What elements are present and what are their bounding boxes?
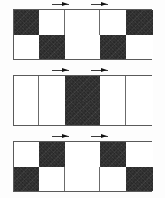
grid-cell-light <box>65 35 100 60</box>
panel-c <box>13 141 152 192</box>
grid-cell-light <box>39 167 65 192</box>
panel-b <box>13 75 152 126</box>
grid-cell-light <box>14 76 39 101</box>
grid-cell-light <box>100 10 126 35</box>
grid-cell-dark <box>126 167 153 192</box>
marker-row-c <box>0 132 165 141</box>
grid-cell-light <box>100 167 126 192</box>
panel-group-a <box>0 0 165 60</box>
grid-cell-dark <box>65 76 100 101</box>
grid-cell-light <box>39 76 65 101</box>
panel-row <box>14 101 151 126</box>
arrow-head <box>101 2 107 6</box>
grid-cell-dark <box>14 10 39 35</box>
arrow-right-icon <box>91 68 108 73</box>
grid-cell-dark <box>14 167 39 192</box>
arrow-head <box>62 134 68 138</box>
panel-row <box>14 10 151 35</box>
grid-cell-light <box>126 35 153 60</box>
panel-row <box>14 167 151 192</box>
grid-cell-light <box>126 142 153 167</box>
panel-row <box>14 142 151 167</box>
grid-cell-dark <box>126 10 153 35</box>
arrow-right-icon <box>52 134 69 139</box>
panel-row <box>14 76 151 101</box>
grid-cell-light <box>100 101 126 126</box>
grid-cell-light <box>65 167 100 192</box>
arrow-head <box>101 68 107 72</box>
grid-cell-dark <box>100 35 126 60</box>
grid-cell-dark <box>100 142 126 167</box>
arrow-head <box>101 134 107 138</box>
arrow-right-icon <box>52 68 69 73</box>
marker-row-b <box>0 66 165 75</box>
grid-cell-light <box>65 142 100 167</box>
grid-cell-light <box>39 10 65 35</box>
arrow-head <box>62 68 68 72</box>
grid-cell-dark <box>39 35 65 60</box>
panel-group-b <box>0 66 165 126</box>
marker-row-a <box>0 0 165 9</box>
grid-cell-light <box>14 101 39 126</box>
arrow-right-icon <box>52 2 69 7</box>
arrow-right-icon <box>91 2 108 7</box>
grid-cell-light <box>126 101 153 126</box>
grid-cell-light <box>100 76 126 101</box>
arrow-right-icon <box>91 134 108 139</box>
arrow-head <box>62 2 68 6</box>
figure-canvas <box>0 0 165 198</box>
panel-group-c <box>0 132 165 192</box>
grid-cell-light <box>126 76 153 101</box>
grid-cell-light <box>14 142 39 167</box>
panel-a <box>13 9 152 60</box>
grid-cell-light <box>14 35 39 60</box>
grid-cell-dark <box>65 101 100 126</box>
panel-row <box>14 35 151 60</box>
grid-cell-light <box>65 10 100 35</box>
grid-cell-dark <box>39 142 65 167</box>
grid-cell-light <box>39 101 65 126</box>
